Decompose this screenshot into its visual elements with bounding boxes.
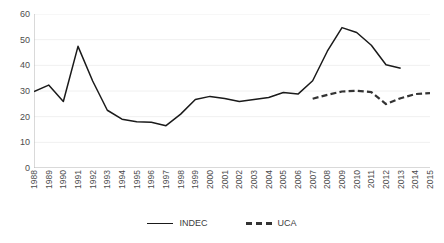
x-tick-label: 2002: [235, 170, 244, 189]
x-tick-label: 1995: [133, 170, 142, 189]
x-tick-label: 1994: [118, 170, 127, 189]
x-tick-label: 2014: [411, 170, 420, 189]
legend-line-icon: [147, 223, 173, 225]
y-tick-label: 10: [20, 138, 30, 147]
x-tick-label: 1997: [162, 170, 171, 189]
x-tick-label: 2012: [382, 170, 391, 189]
x-tick-label: 2005: [279, 170, 288, 189]
plot-svg: [34, 14, 430, 168]
y-tick-label: 30: [20, 87, 30, 96]
x-tick-label: 2000: [206, 170, 215, 189]
x-tick-label: 1988: [30, 170, 39, 189]
x-tick-label: 1992: [89, 170, 98, 189]
x-tick-label: 1993: [103, 170, 112, 189]
y-tick-label: 20: [20, 112, 30, 121]
plot-area: [34, 14, 430, 168]
x-tick-label: 2003: [250, 170, 259, 189]
x-tick-label: 1989: [45, 170, 54, 189]
x-tick-label: 2009: [338, 170, 347, 189]
x-tick-label: 2015: [426, 170, 435, 189]
legend-label: INDEC: [179, 219, 207, 228]
x-tick-label: 1996: [147, 170, 156, 189]
x-tick-label: 1991: [74, 170, 83, 189]
series-line-uca: [313, 91, 430, 104]
x-tick-label: 2007: [309, 170, 318, 189]
legend-line-icon: [246, 222, 272, 224]
legend-item-indec[interactable]: INDEC: [147, 219, 207, 228]
x-axis: 1988198919901991199219931994199519961997…: [34, 170, 430, 212]
x-tick-label: 2013: [397, 170, 406, 189]
x-tick-label: 2010: [353, 170, 362, 189]
x-tick-label: 2008: [323, 170, 332, 189]
legend-item-uca[interactable]: UCA: [246, 219, 297, 228]
legend-label: UCA: [278, 219, 297, 228]
x-tick-label: 1998: [177, 170, 186, 189]
x-tick-label: 2006: [294, 170, 303, 189]
x-tick-label: 2001: [221, 170, 230, 189]
series-line-indec: [34, 28, 401, 126]
gridlines: [34, 14, 430, 142]
poverty-rate-line-chart: 0102030405060 19881989199019911992199319…: [0, 0, 444, 243]
series-lines: [34, 28, 430, 126]
x-tick-label: 2011: [367, 170, 376, 188]
x-tick-label: 2004: [265, 170, 274, 189]
y-axis: 0102030405060: [0, 14, 30, 168]
y-tick-label: 50: [20, 35, 30, 44]
x-tick-label: 1999: [191, 170, 200, 189]
chart-legend: INDECUCA: [0, 219, 444, 228]
y-tick-label: 40: [20, 61, 30, 70]
y-tick-label: 60: [20, 10, 30, 19]
x-tick-label: 1990: [59, 170, 68, 189]
